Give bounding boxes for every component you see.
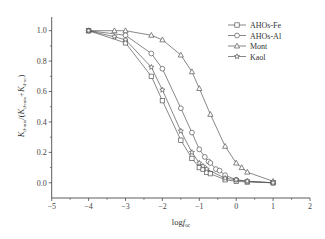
- triangle-marker-icon: [245, 169, 250, 174]
- chart: −5−4−3−2−10120.00.20.40.60.81.0 AHOs-FeA…: [0, 0, 325, 239]
- legend-label: AHOs-Al: [250, 32, 282, 41]
- x-tick-label: 1: [271, 202, 275, 211]
- circle-marker-icon: [202, 155, 207, 160]
- triangle-marker-icon: [239, 165, 244, 170]
- square-legend-icon: [235, 23, 239, 27]
- triangle-legend-icon: [234, 43, 239, 48]
- triangle-marker-icon: [223, 143, 228, 148]
- y-sub1: d-mix: [22, 119, 27, 131]
- triangle-marker-icon: [112, 28, 117, 33]
- star-marker-icon: [160, 87, 165, 92]
- circle-marker-icon: [149, 51, 154, 56]
- circle-marker-icon: [208, 161, 213, 166]
- star-marker-icon: [189, 150, 194, 155]
- legend-label: AHOs-Fe: [250, 21, 282, 30]
- y-tick-label: 1.0: [37, 26, 47, 35]
- circle-marker-icon: [197, 147, 202, 152]
- x-tick-label: −3: [121, 202, 130, 211]
- legend-item: Mont: [228, 42, 268, 51]
- square-marker-icon: [149, 74, 153, 78]
- legend-item: AHOs-Al: [228, 32, 282, 41]
- y-tick-label: 0.2: [37, 148, 47, 157]
- triangle-marker-icon: [189, 69, 194, 74]
- y-tick-label: 0.8: [37, 57, 47, 66]
- legend-item: Kaol: [228, 53, 266, 62]
- star-marker-icon: [178, 128, 183, 133]
- star-marker-icon: [112, 34, 117, 39]
- x-axis-title: logfoc: [172, 217, 191, 228]
- x-axis-title-main: log: [172, 217, 184, 227]
- y-tick-label: 0.6: [37, 87, 47, 96]
- star-legend-icon: [234, 54, 239, 59]
- x-tick-label: −4: [84, 202, 93, 211]
- y-end: ): [16, 75, 26, 78]
- circle-marker-icon: [178, 106, 183, 111]
- x-tick-label: 2: [308, 202, 312, 211]
- square-marker-icon: [190, 156, 194, 160]
- legend-label: Kaol: [250, 53, 266, 62]
- series-layer: [86, 28, 276, 185]
- triangle-marker-icon: [197, 86, 202, 91]
- y-tick-label: 0.0: [37, 179, 47, 188]
- legend: AHOs-FeAHOs-AlMontKaol: [228, 21, 282, 62]
- x-tick-label: −5: [47, 202, 56, 211]
- x-tick-label: 0: [234, 202, 238, 211]
- y-sub2: d-mix: [22, 96, 27, 108]
- triangle-marker-icon: [234, 160, 239, 165]
- x-tick-label: −2: [158, 202, 167, 211]
- legend-item: AHOs-Fe: [228, 21, 282, 30]
- y-axis-title: Kd-mix/(Kd-mix+Kd-oc): [16, 75, 27, 139]
- circle-legend-icon: [235, 33, 240, 38]
- square-marker-icon: [208, 171, 212, 175]
- y-tick-label: 0.4: [37, 118, 47, 127]
- triangle-marker-icon: [123, 28, 128, 33]
- circle-marker-icon: [190, 130, 195, 135]
- x-tick-label: −1: [195, 202, 204, 211]
- square-marker-icon: [179, 138, 183, 142]
- legend-label: Mont: [250, 42, 268, 51]
- triangle-marker-icon: [208, 112, 213, 117]
- triangle-marker-icon: [178, 52, 183, 57]
- circle-marker-icon: [160, 66, 165, 71]
- circle-marker-icon: [217, 168, 222, 173]
- square-marker-icon: [160, 98, 164, 102]
- x-axis-title-sub: oc: [185, 222, 191, 228]
